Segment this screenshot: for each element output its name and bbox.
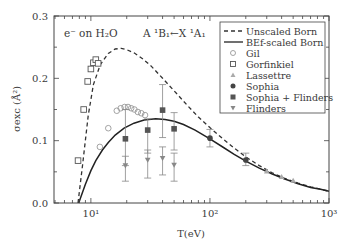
open-circle-marker-icon [125,104,131,110]
open-circle-marker-icon [97,144,103,150]
filled-square-marker-icon [145,127,151,133]
filled-circle-marker-icon [243,157,249,163]
x-tick-label: 10² [202,208,219,219]
filled-square-marker-icon [231,95,236,100]
chart-container: 10¹10²10³0.00.10.20.3 e⁻ on H₂O A ¹B₁←X … [0,0,343,247]
y-axis-label: σexc (Å²) [11,86,22,132]
open-square-marker-icon [88,66,94,72]
open-square-marker-icon [231,62,236,67]
open-circle-marker-icon [105,125,111,131]
bef-scaled-born-curve [79,119,329,203]
triangle-down-marker-icon [171,163,177,168]
legend-label: Gorfinkiel [246,59,294,70]
legend-label: Sophia [246,81,279,92]
x-axis-label: T(eV) [177,228,205,239]
x-tick-label: 10¹ [83,208,100,219]
triangle-down-marker-icon [145,158,151,163]
filled-circle-marker-icon [207,135,213,141]
legend-label: Lassettre [246,70,292,81]
legend-label: Flinders [246,103,286,114]
legend-label: Gil [246,48,260,59]
target-annotation: e⁻ on H₂O [64,27,118,39]
filled-square-marker-icon [171,126,177,132]
open-square-marker-icon [75,158,81,164]
open-circle-marker-icon [128,105,134,111]
y-tick-label: 0.1 [32,135,48,146]
legend-label: Unscaled Born [246,26,317,37]
y-tick-label: 0.3 [32,11,48,22]
x-tick-label: 10³ [321,208,338,219]
open-square-marker-icon [85,79,91,85]
open-square-marker-icon [81,107,87,113]
filled-square-marker-icon [160,107,166,113]
legend: Unscaled BornBEf-scaled BornGilGorfinkie… [220,22,333,114]
legend-label: Sophia + Flinders [246,92,333,103]
transition-annotation: A ¹B₁←X ¹A₁ [142,27,206,39]
cross-section-plot: 10¹10²10³0.00.10.20.3 e⁻ on H₂O A ¹B₁←X … [0,0,343,247]
legend-label: BEf-scaled Born [246,37,323,48]
filled-square-marker-icon [123,136,129,142]
triangle-down-marker-icon [160,156,166,161]
y-tick-label: 0.2 [32,73,48,84]
filled-circle-marker-icon [231,84,236,89]
y-tick-label: 0.0 [32,198,48,209]
open-square-marker-icon [95,61,101,67]
